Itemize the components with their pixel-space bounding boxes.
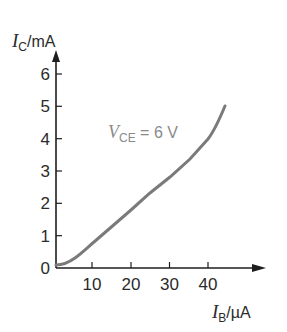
x-axis-label: IB/µA (211, 301, 251, 325)
y-tick-label: 0 (41, 259, 50, 278)
y-ticks (56, 74, 62, 236)
y-tick-labels: 0 1 2 3 4 5 6 (41, 65, 50, 278)
x-tick-label: 30 (160, 275, 179, 294)
y-tick-label: 2 (41, 194, 50, 213)
x-ticks (92, 262, 208, 268)
y-tick-label: 6 (41, 65, 50, 84)
x-axis-arrow-icon (252, 264, 266, 272)
x-tick-label: 10 (83, 275, 102, 294)
x-tick-labels: 10 20 30 40 (83, 275, 218, 294)
chart: 0 1 2 3 4 5 6 10 20 30 40 VCE = 6 V IC/m… (0, 0, 287, 332)
y-tick-label: 1 (41, 227, 50, 246)
y-axis-arrow-icon (52, 50, 60, 62)
x-tick-label: 40 (199, 275, 218, 294)
y-tick-label: 5 (41, 97, 50, 116)
curve-annotation: VCE = 6 V (108, 122, 178, 145)
y-tick-label: 4 (41, 130, 50, 149)
y-axis-label: IC/mA (11, 30, 56, 54)
y-tick-label: 3 (41, 162, 50, 181)
x-tick-label: 20 (122, 275, 141, 294)
